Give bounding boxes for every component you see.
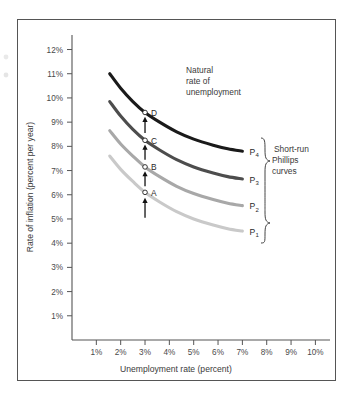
natural-rate-line2: rate of <box>186 76 210 86</box>
curve-label-subscript: 3 <box>256 180 260 186</box>
point-label: D <box>151 108 157 118</box>
curve-end-labels-group: P4P3P2P1 <box>249 147 259 239</box>
y-tick-label: 4% <box>51 239 63 248</box>
x-tick-label: 3% <box>139 348 151 357</box>
y-tick-label: 5% <box>51 215 63 224</box>
curve-label-subscript: 1 <box>256 232 260 238</box>
curve-p3 <box>110 102 243 179</box>
x-axis-ticks <box>96 340 315 345</box>
y-tick-label: 9% <box>51 118 63 127</box>
shift-arrow-1 <box>142 198 147 218</box>
y-tick-label: 3% <box>51 263 63 272</box>
phillips-note-line1: Short-run <box>274 144 309 154</box>
arrow-head-icon <box>142 117 147 122</box>
arrow-head-icon <box>142 145 147 150</box>
curve-p2 <box>110 131 243 206</box>
curve-label-p1: P1 <box>249 227 259 239</box>
point-marker <box>143 138 148 143</box>
phillips-curve-chart: 1%2%3%4%5%6%7%8%9%10%11%12% 1%2%3%4%5%6%… <box>0 0 353 400</box>
curve-p4 <box>110 74 243 151</box>
point-marker <box>143 190 148 195</box>
curly-brace-icon <box>261 138 270 243</box>
x-tick-label: 8% <box>261 348 273 357</box>
curve-label-subscript: 2 <box>256 207 260 213</box>
curve-label-subscript: 4 <box>256 152 260 158</box>
curve-label-base: P <box>249 201 255 211</box>
curve-p1 <box>110 156 243 231</box>
x-tick-label: 2% <box>115 348 127 357</box>
natural-rate-line3: unemployment <box>186 87 242 97</box>
point-label: C <box>151 136 157 146</box>
curve-label-base: P <box>249 147 255 157</box>
natural-rate-line1: Natural <box>186 65 213 75</box>
phillips-curves-group <box>110 74 243 231</box>
curve-label-p2: P2 <box>249 201 259 213</box>
phillips-note-line3: curves <box>272 166 297 176</box>
y-tick-label: 6% <box>51 191 63 200</box>
figure-container: 1%2%3%4%5%6%7%8%9%10%11%12% 1%2%3%4%5%6%… <box>0 0 353 400</box>
point-label: A <box>151 188 157 198</box>
y-axis-tick-labels: 1%2%3%4%5%6%7%8%9%10%11%12% <box>47 46 63 321</box>
y-tick-label: 2% <box>51 288 63 297</box>
curve-label-base: P <box>249 227 255 237</box>
curve-label-base: P <box>249 175 255 185</box>
x-tick-label: 9% <box>285 348 297 357</box>
y-tick-label: 8% <box>51 142 63 151</box>
shift-arrow-4 <box>142 117 147 133</box>
x-axis-title: Unemployment rate (percent) <box>120 364 232 374</box>
x-tick-label: 7% <box>236 348 248 357</box>
point-label: B <box>151 162 157 172</box>
arrow-head-icon <box>142 198 147 203</box>
y-axis-ticks <box>67 50 72 316</box>
y-axis-title: Rate of inflation (percent per year) <box>25 122 35 253</box>
curve-label-p3: P3 <box>249 175 259 187</box>
shift-arrow-3 <box>142 145 147 160</box>
x-tick-label: 4% <box>163 348 175 357</box>
arrow-head-icon <box>142 171 147 176</box>
y-tick-label: 1% <box>51 312 63 321</box>
y-tick-label: 7% <box>51 167 63 176</box>
page-edge-specks <box>4 55 9 78</box>
point-marker <box>143 165 148 170</box>
x-tick-label: 5% <box>188 348 200 357</box>
y-tick-label: 12% <box>47 46 63 55</box>
x-tick-label: 10% <box>307 348 323 357</box>
x-tick-label: 1% <box>90 348 102 357</box>
x-axis-tick-labels: 1%2%3%4%5%6%7%8%9%10% <box>90 348 323 357</box>
y-tick-label: 10% <box>47 94 63 103</box>
phillips-note-line2: Phillips <box>272 155 299 165</box>
y-tick-label: 11% <box>47 70 63 79</box>
x-tick-label: 6% <box>212 348 224 357</box>
short-run-phillips-annotation: Short-run Phillips curves <box>261 138 309 243</box>
shift-arrow-2 <box>142 171 147 186</box>
point-marker <box>143 110 148 115</box>
curve-label-p4: P4 <box>249 147 259 159</box>
natural-rate-annotation: Natural rate of unemployment <box>186 65 242 97</box>
